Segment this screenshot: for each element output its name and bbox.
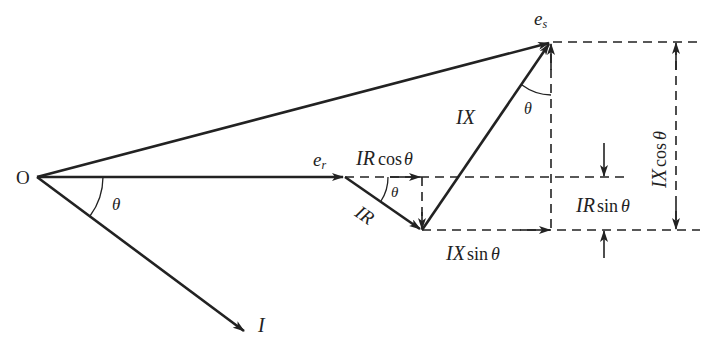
current-vector <box>37 177 244 331</box>
ir-label: IR <box>351 201 379 229</box>
ix-cos-label: IXcosθ <box>648 131 670 189</box>
angle-arc-origin <box>90 177 103 216</box>
origin-label: O <box>16 167 30 188</box>
angle-origin-label: θ <box>112 195 120 214</box>
ix-sin-label: IXsinθ <box>445 242 500 264</box>
ir-sin-label: IRsinθ <box>575 194 630 216</box>
ix-label: IX <box>455 106 476 128</box>
angle-ir-label: θ <box>391 184 399 200</box>
current-label: I <box>257 314 266 336</box>
es-label: es <box>534 8 547 31</box>
ir-cos-label: IRcosθ <box>355 147 413 169</box>
phasor-diagram: O θ er es I IR θ IX θ IRcosθ IRsinθ IXsi… <box>0 0 707 345</box>
dashed-lines <box>345 42 700 230</box>
angle-arc-ix <box>522 85 551 95</box>
angle-arc-ir <box>381 177 388 201</box>
angle-ix-label: θ <box>524 100 532 117</box>
er-label: er <box>313 149 326 172</box>
